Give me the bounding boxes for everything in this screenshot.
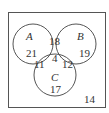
region-b-only: 19 <box>79 47 91 59</box>
region-c-only: 17 <box>50 83 62 95</box>
region-abc: 4 <box>52 52 58 64</box>
region-outside: 14 <box>84 93 96 105</box>
set-label-b: B <box>77 30 84 42</box>
set-label-a: A <box>25 30 33 42</box>
venn-diagram: A B C 21 19 17 18 11 12 4 14 <box>0 0 109 113</box>
region-ac: 11 <box>34 58 45 70</box>
set-label-c: C <box>51 71 59 83</box>
region-ab: 18 <box>49 35 61 47</box>
region-bc: 12 <box>62 58 73 70</box>
